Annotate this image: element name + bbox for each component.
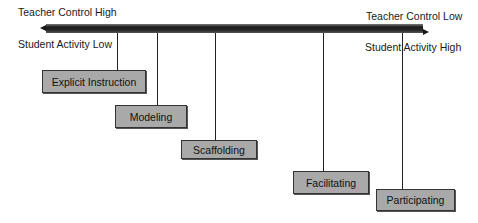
stage-label: Facilitating xyxy=(306,177,356,189)
stage-box-modeling: Modeling xyxy=(115,105,187,128)
connector-participating xyxy=(402,33,403,189)
stage-box-participating: Participating xyxy=(376,189,455,211)
connector-explicit-instruction xyxy=(117,33,118,70)
connector-scaffolding xyxy=(215,33,216,140)
arrow-right-head-icon xyxy=(423,29,429,35)
stage-box-facilitating: Facilitating xyxy=(293,171,369,194)
connector-facilitating xyxy=(323,33,324,171)
teacher-control-low-label: Teacher Control Low xyxy=(366,11,462,22)
student-activity-low-label: Student Activity Low xyxy=(18,39,112,50)
stage-label: Explicit Instruction xyxy=(52,76,137,88)
student-activity-high-label: Student Activity High xyxy=(365,42,461,53)
continuum-arrow-bar xyxy=(46,24,423,33)
connector-modeling xyxy=(157,33,158,105)
stage-box-explicit-instruction: Explicit Instruction xyxy=(42,70,146,93)
stage-label: Participating xyxy=(387,194,445,206)
stage-label: Modeling xyxy=(130,111,173,123)
stage-label: Scaffolding xyxy=(193,144,245,156)
teacher-control-high-label: Teacher Control High xyxy=(18,7,117,18)
stage-box-scaffolding: Scaffolding xyxy=(181,140,257,159)
